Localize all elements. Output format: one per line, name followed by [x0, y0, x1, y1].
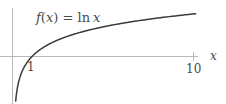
x-tick-label-1: 1	[27, 60, 35, 74]
x-axis-label: x	[210, 49, 217, 63]
ln-function-chart: f(x) = lnx 1 10 x	[0, 0, 226, 104]
x-tick-label-10: 10	[186, 62, 201, 76]
chart-canvas: f(x) = lnx 1 10 x	[0, 0, 226, 104]
ln-curve	[16, 14, 196, 101]
function-label: f(x) = lnx	[35, 10, 101, 25]
